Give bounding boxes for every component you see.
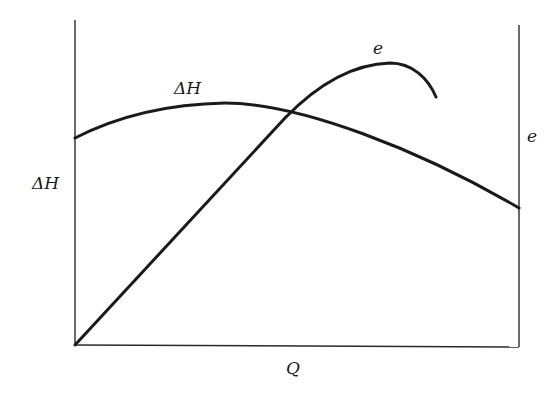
x-axis-label: Q [286,358,300,378]
right-axis-label: e [527,126,537,146]
efficiency-curve-label: e [373,38,383,58]
x-axis [75,345,519,347]
head-curve-label: ΔH [173,78,202,98]
head-curve [75,103,519,208]
pump-characteristic-diagram: ΔH e ΔH e Q [0,0,559,403]
left-axis-label: ΔH [31,173,60,193]
